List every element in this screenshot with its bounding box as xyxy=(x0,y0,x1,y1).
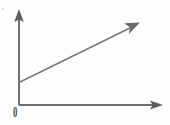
trend-line-arrow-icon xyxy=(124,23,140,35)
graph-canvas xyxy=(0,0,170,125)
line-graph-figure: 0 xyxy=(0,0,170,125)
trend-line xyxy=(19,28,131,83)
scan-artifact-speck xyxy=(2,8,4,10)
origin-label: 0 xyxy=(13,106,17,120)
